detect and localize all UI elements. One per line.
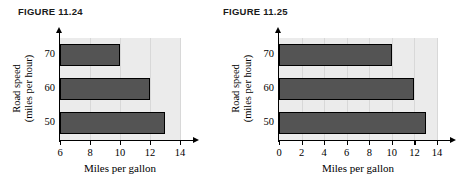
y-axis-arrow-icon: [56, 27, 62, 33]
gridline: [180, 38, 181, 140]
bar: [60, 112, 165, 134]
x-axis-tick-label: 12: [404, 147, 424, 158]
x-axis-arrow-icon: [450, 137, 456, 143]
y-axis-tick-label: 50: [252, 116, 274, 127]
figure-caption: FIGURE 11.25: [223, 6, 288, 17]
x-axis-tick-label: 4: [314, 147, 334, 158]
x-axis-tick: [90, 141, 91, 145]
x-axis-title: Miles per gallon: [249, 162, 460, 174]
bar: [60, 78, 150, 100]
gridline: [437, 38, 438, 140]
figure-caption: FIGURE 11.24: [18, 6, 83, 17]
x-axis-tick: [279, 141, 280, 145]
x-axis-tick-label: 2: [292, 147, 312, 158]
y-axis-title: Road speed (miles per hour): [230, 30, 253, 148]
bar: [60, 44, 120, 66]
bar: [279, 44, 392, 66]
x-axis-tick: [150, 141, 151, 145]
y-axis-title-line2: (miles per hour): [241, 30, 253, 148]
x-axis-tick-label: 0: [269, 147, 289, 158]
y-axis-tick-label: 50: [33, 116, 55, 127]
x-axis-tick: [414, 141, 415, 145]
y-axis-tick-label: 70: [33, 48, 55, 59]
x-axis-tick: [302, 141, 303, 145]
x-axis-tick: [347, 141, 348, 145]
x-axis-tick: [324, 141, 325, 145]
x-axis-tick: [437, 141, 438, 145]
y-axis-title-line1: Road speed: [230, 64, 241, 113]
x-axis-tick-label: 14: [170, 147, 190, 158]
x-axis-tick-label: 10: [110, 147, 130, 158]
y-axis-title-line2: (miles per hour): [22, 30, 34, 148]
y-axis-title: Road speed (miles per hour): [11, 30, 34, 148]
x-axis-tick: [369, 141, 370, 145]
bar-chart-right: Road speed (miles per hour) Miles per ga…: [223, 26, 445, 184]
x-axis-line: [278, 140, 450, 141]
bar: [279, 112, 426, 134]
x-axis-title: Miles per gallon: [30, 162, 210, 174]
figure-11-24: FIGURE 11.24 Road speed (miles per hour)…: [0, 0, 222, 184]
y-axis-tick-label: 60: [252, 82, 274, 93]
figure-11-25: FIGURE 11.25 Road speed (miles per hour)…: [223, 0, 445, 184]
y-axis-title-line1: Road speed: [11, 64, 22, 113]
x-axis-arrow-icon: [193, 137, 199, 143]
y-axis-arrow-icon: [275, 27, 281, 33]
x-axis-tick-label: 12: [140, 147, 160, 158]
bar-chart-left: Road speed (miles per hour) Miles per ga…: [0, 26, 222, 184]
x-axis-tick: [120, 141, 121, 145]
x-axis-tick-label: 6: [337, 147, 357, 158]
x-axis-tick-label: 6: [50, 147, 70, 158]
x-axis-tick: [392, 141, 393, 145]
x-axis-tick-label: 14: [427, 147, 447, 158]
x-axis-tick-label: 8: [359, 147, 379, 158]
bar: [279, 78, 414, 100]
x-axis-tick: [180, 141, 181, 145]
x-axis-tick: [60, 141, 61, 145]
x-axis-line: [59, 140, 193, 141]
x-axis-tick-label: 8: [80, 147, 100, 158]
x-axis-tick-label: 10: [382, 147, 402, 158]
y-axis-tick-label: 70: [252, 48, 274, 59]
y-axis-tick-label: 60: [33, 82, 55, 93]
